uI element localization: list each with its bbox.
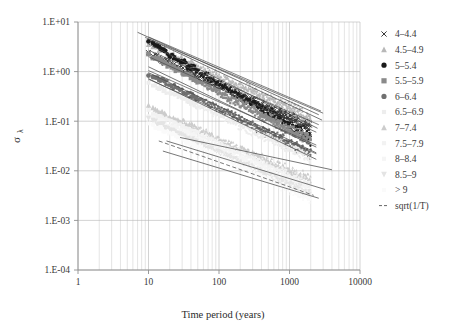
legend-label-8: 8–8.4 (395, 154, 417, 164)
legend-label-5: 6.5–6.9 (395, 107, 424, 117)
legend-label-0: 4–4.4 (395, 29, 417, 39)
legend-label-3: 5.5–5.9 (395, 76, 424, 86)
legend-label-6: 7–7.4 (395, 123, 417, 133)
legend-label-4: 6–6.4 (395, 92, 417, 102)
y-tick-label-2: 1.E-01 (44, 117, 70, 127)
y-tick-label-3: 1.E-02 (44, 166, 70, 176)
x-tick-label-1: 10 (144, 277, 154, 287)
legend-label-9: 8.5–9 (395, 170, 417, 180)
x-tick-label-4: 10000 (348, 277, 372, 287)
legend-label-2: 5–5.4 (395, 61, 417, 71)
y-axis-title-sigma: σ (10, 137, 22, 143)
legend-label-11: sqrt(1/T) (395, 201, 429, 212)
y-tick-label-4: 1.E-03 (44, 216, 70, 226)
y-tick-label-1: 1.E+00 (42, 67, 70, 77)
chart-figure: 110100100010000 1.E+011.E+001.E-011.E-02… (0, 0, 468, 329)
legend-label-1: 4.5–4.9 (395, 45, 424, 55)
x-tick-label-0: 1 (76, 277, 81, 287)
y-axis-title-subscript: λ (16, 129, 25, 133)
legend-label-10: > 9 (395, 185, 408, 195)
y-tick-label-5: 1.E-04 (44, 265, 70, 275)
legend-label-7: 7.5–7.9 (395, 139, 424, 149)
x-tick-label-2: 100 (212, 277, 227, 287)
x-axis-title: Time period (years) (181, 309, 265, 321)
y-tick-label-0: 1.E+01 (42, 17, 70, 27)
chart-svg: 110100100010000 1.E+011.E+001.E-011.E-02… (0, 0, 468, 329)
x-tick-label-3: 1000 (280, 277, 299, 287)
